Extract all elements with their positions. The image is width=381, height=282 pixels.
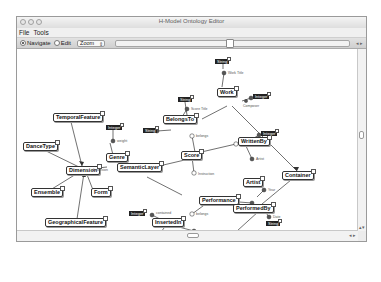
node-geographical-feature[interactable]: GeographicalFeature xyxy=(45,218,106,227)
horizontal-scrollbar-thumb[interactable] xyxy=(187,233,199,238)
edit-radio[interactable]: Edit xyxy=(54,40,71,46)
edge-label: Instruction xyxy=(198,172,214,176)
datatype-tag[interactable]: Integer xyxy=(253,94,269,99)
menu-tools[interactable]: Tools xyxy=(33,29,48,36)
datatype-tag[interactable]: String xyxy=(178,97,192,102)
edge-label: belongs xyxy=(196,212,208,216)
node-form[interactable]: Form xyxy=(91,188,111,197)
zoom-slider[interactable] xyxy=(115,40,350,47)
node-semantic-layer[interactable]: SemanticLayer xyxy=(117,163,162,172)
radio-unselected-icon xyxy=(54,40,60,46)
node-dance-type[interactable]: DanceType xyxy=(23,142,58,151)
node-temporal-feature[interactable]: TemporalFeature xyxy=(53,113,103,122)
node-written-by[interactable]: WrittenBy xyxy=(238,137,270,146)
edge-label: contained xyxy=(156,211,171,215)
edit-label: Edit xyxy=(61,40,71,46)
slider-arrow-buttons[interactable]: ◂ ▸ xyxy=(356,40,363,46)
toolbar: Navigate Edit Zoom ⇕ ◂ ▸ xyxy=(17,38,366,49)
ontology-graph-canvas[interactable]: TemporalFeature DanceType Dimension Ense… xyxy=(17,49,358,231)
zoom-select[interactable]: Zoom ⇕ xyxy=(77,40,105,47)
datatype-tag[interactable]: String xyxy=(143,128,157,133)
edge-label: weight xyxy=(117,139,127,143)
menu-file[interactable]: File xyxy=(19,29,29,36)
horizontal-scroll-arrows[interactable]: ◂ ▸ xyxy=(349,232,356,238)
node-work[interactable]: Work xyxy=(217,88,237,97)
datatype-tag[interactable]: Integer xyxy=(261,131,277,136)
navigate-radio[interactable]: Navigate xyxy=(20,40,51,46)
node-belongs-to[interactable]: BelongsTo xyxy=(163,115,197,124)
node-genre[interactable]: Genre xyxy=(106,153,128,162)
resize-corner[interactable] xyxy=(358,231,366,241)
node-ensemble[interactable]: Ensemble xyxy=(31,188,63,197)
zoom-select-value: Zoom xyxy=(80,40,94,46)
vertical-scroll-arrows[interactable]: ▴▾ xyxy=(359,225,365,230)
horizontal-scrollbar[interactable]: ◂ ▸ xyxy=(17,230,358,241)
node-score[interactable]: Score xyxy=(181,151,202,160)
node-container[interactable]: Container xyxy=(282,171,314,180)
node-artist[interactable]: Artist xyxy=(243,178,263,187)
datatype-tag[interactable]: Integer xyxy=(106,125,122,130)
datatype-tag[interactable]: Integer xyxy=(129,211,145,216)
node-performed-by[interactable]: PerformedBy xyxy=(233,204,274,213)
edge-label: Composer xyxy=(243,104,259,108)
datatype-tag[interactable]: String xyxy=(215,59,229,64)
vertical-scrollbar-thumb[interactable] xyxy=(359,131,364,139)
window-title: H-Model Ontology Editor xyxy=(17,18,366,24)
updown-arrows-icon: ⇕ xyxy=(99,41,103,47)
app-window: H-Model Ontology Editor File Tools Navig… xyxy=(16,16,367,242)
node-inserted-in[interactable]: InsertedIn xyxy=(152,218,184,227)
edge-label: Score Title xyxy=(191,107,208,111)
menu-bar: File Tools xyxy=(17,28,366,38)
edge-label: Artist xyxy=(256,157,264,161)
edge-label: Date xyxy=(273,215,280,219)
vertical-scrollbar[interactable]: ▴▾ xyxy=(357,49,366,231)
graph-edges xyxy=(17,49,358,231)
zoom-slider-thumb[interactable] xyxy=(226,39,234,48)
edge-label: Work Title xyxy=(228,71,244,75)
radio-selected-icon xyxy=(20,40,26,46)
datatype-tag[interactable]: String xyxy=(266,221,280,226)
edge-label: belongs xyxy=(196,134,208,138)
navigate-label: Navigate xyxy=(27,40,51,46)
edge-label: dimension xyxy=(92,168,108,172)
edge-label: Year xyxy=(268,188,275,192)
